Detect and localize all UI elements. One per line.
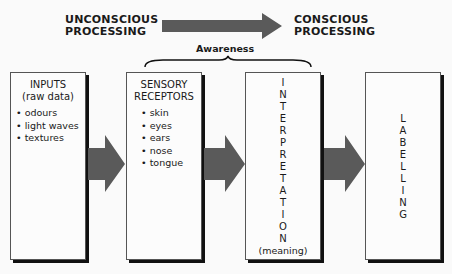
list-item: eyes bbox=[141, 120, 201, 133]
list-item: skin bbox=[141, 107, 201, 120]
labelling-box: LABELLING bbox=[365, 72, 441, 260]
vertical-letter: O bbox=[246, 221, 320, 233]
title-line: (raw data) bbox=[11, 91, 85, 103]
sensory-receptors-box: SENSORY RECEPTORS skin eyes ears nose to… bbox=[126, 72, 202, 260]
inputs-box: INPUTS (raw data) odours light waves tex… bbox=[10, 72, 86, 260]
vertical-letter: T bbox=[246, 101, 320, 113]
vertical-letter: A bbox=[246, 185, 320, 197]
label-line: PROCESSING bbox=[65, 26, 158, 38]
flow-arrow-icon bbox=[324, 135, 366, 193]
vertical-letter: N bbox=[366, 197, 440, 209]
list-item: nose bbox=[141, 145, 201, 158]
vertical-letter: A bbox=[366, 125, 440, 137]
box-title: SENSORY RECEPTORS bbox=[127, 79, 201, 103]
vertical-letter: B bbox=[366, 137, 440, 149]
interpretation-vertical-text: INTERPRETATION bbox=[246, 77, 320, 245]
interpretation-subtitle: (meaning) bbox=[246, 245, 320, 257]
vertical-letter: N bbox=[246, 233, 320, 245]
vertical-letter: I bbox=[366, 185, 440, 197]
list-item: light waves bbox=[16, 120, 85, 133]
flow-arrow-icon bbox=[88, 135, 126, 193]
interpretation-box: INTERPRETATION (meaning) bbox=[245, 72, 321, 260]
brace-icon bbox=[143, 55, 313, 69]
vertical-letter: E bbox=[246, 161, 320, 173]
vertical-letter: T bbox=[246, 197, 320, 209]
vertical-letter: E bbox=[366, 149, 440, 161]
labelling-vertical-text: LABELLING bbox=[366, 113, 440, 221]
vertical-letter: T bbox=[246, 173, 320, 185]
title-line: INPUTS bbox=[11, 79, 85, 91]
vertical-letter: P bbox=[246, 137, 320, 149]
list-item: odours bbox=[16, 107, 85, 120]
progress-arrow-icon bbox=[162, 12, 284, 40]
list-item: ears bbox=[141, 132, 201, 145]
vertical-letter: I bbox=[246, 77, 320, 89]
vertical-letter: G bbox=[366, 209, 440, 221]
box-title: INPUTS (raw data) bbox=[11, 79, 85, 103]
flow-arrow-icon bbox=[204, 135, 246, 193]
vertical-letter: N bbox=[246, 89, 320, 101]
title-line: SENSORY bbox=[127, 79, 201, 91]
list-item: tongue bbox=[141, 157, 201, 170]
receptors-list: skin eyes ears nose tongue bbox=[127, 107, 201, 170]
vertical-letter: R bbox=[246, 125, 320, 137]
unconscious-processing-label: UNCONSCIOUS PROCESSING bbox=[65, 14, 158, 38]
label-line: PROCESSING bbox=[294, 26, 375, 38]
vertical-letter: R bbox=[246, 149, 320, 161]
list-item: textures bbox=[16, 132, 85, 145]
vertical-letter: L bbox=[366, 161, 440, 173]
vertical-letter: E bbox=[246, 113, 320, 125]
awareness-label: Awareness bbox=[196, 43, 254, 54]
title-line: RECEPTORS bbox=[127, 91, 201, 103]
vertical-letter: L bbox=[366, 113, 440, 125]
vertical-letter: I bbox=[246, 209, 320, 221]
inputs-list: odours light waves textures bbox=[11, 107, 85, 145]
conscious-processing-label: CONSCIOUS PROCESSING bbox=[294, 14, 375, 38]
vertical-letter: L bbox=[366, 173, 440, 185]
